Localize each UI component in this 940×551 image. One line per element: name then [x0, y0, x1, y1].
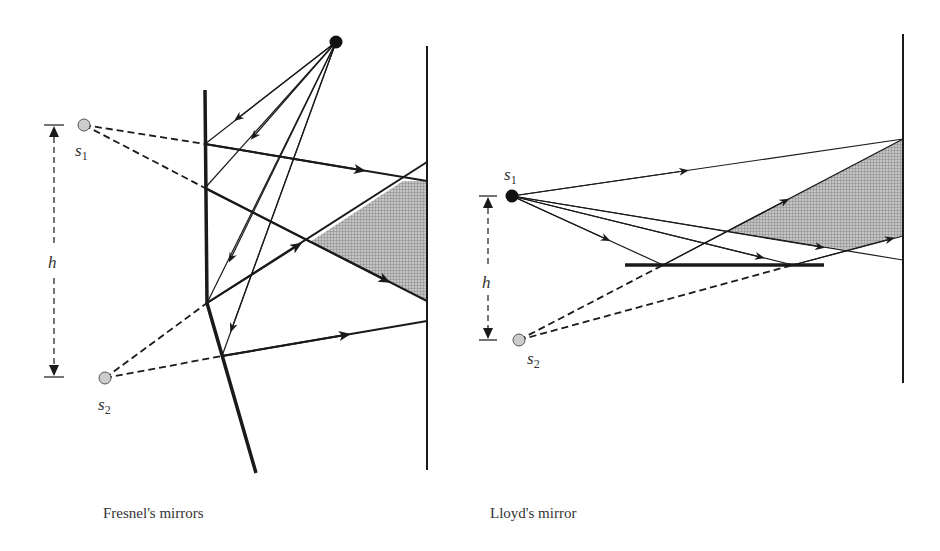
label-s1: s1 [75, 141, 88, 163]
label-s2: s2 [527, 349, 540, 371]
lloyds-mirror-diagram: s1 s2 h [479, 34, 903, 383]
virtual-source-s1 [78, 119, 90, 131]
height-dimension: h [479, 196, 497, 340]
height-dimension: h [44, 125, 64, 377]
virtual-rays [519, 265, 793, 340]
interference-region [729, 139, 903, 250]
label-h: h [48, 253, 57, 272]
virtual-rays [84, 125, 222, 378]
real-source-s1 [506, 190, 519, 203]
virtual-source-s2 [99, 372, 111, 384]
caption-lloyds-mirror: Lloyd's mirror [490, 505, 576, 522]
real-source [330, 36, 343, 49]
label-s2: s2 [98, 395, 111, 417]
caption-fresnels-mirrors: Fresnel's mirrors [103, 505, 204, 522]
fresnel-mirrors-diagram: s1 s2 h [44, 36, 427, 474]
virtual-source-s2 [513, 334, 525, 346]
label-s1: s1 [504, 165, 517, 187]
optics-diagram: s1 s2 h [0, 0, 940, 551]
label-h: h [482, 273, 491, 292]
